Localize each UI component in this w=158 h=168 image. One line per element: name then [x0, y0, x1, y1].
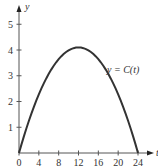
y-tick-label: 1 [8, 122, 13, 133]
chart: 04812162024 12345 t y y = C(t) [0, 0, 158, 168]
x-tick-label: 8 [56, 157, 61, 168]
y-tick-label: 2 [8, 96, 13, 107]
x-tick-label: 20 [113, 157, 123, 168]
x-tick-label: 4 [36, 157, 41, 168]
y-tick-label: 3 [8, 70, 13, 81]
curve-label: y = C(t) [106, 64, 140, 76]
x-tick-label: 24 [133, 157, 143, 168]
x-axis-label: t [156, 147, 158, 158]
y-axis-arrow-icon [17, 5, 22, 12]
axes [17, 5, 155, 156]
x-tick-label: 16 [93, 157, 103, 168]
x-tick-label: 0 [17, 157, 22, 168]
y-tick-label: 5 [8, 19, 13, 30]
y-axis-label: y [24, 1, 30, 12]
x-tick-label: 12 [74, 157, 84, 168]
x-axis-arrow-icon [147, 151, 154, 156]
y-tick-label: 4 [8, 45, 13, 56]
